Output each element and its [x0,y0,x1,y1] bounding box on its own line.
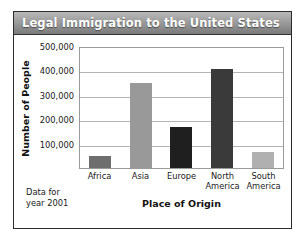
x-axis-tick-label-line: Africa [79,171,120,181]
bar-series [80,48,283,168]
bar[interactable] [211,69,233,168]
x-axis-title: Place of Origin [79,198,284,209]
chart-body: Number of People 100,000200,000300,00040… [14,35,291,228]
bar-slot [202,48,243,168]
x-axis-tick-label: NorthAmerica [202,171,243,191]
bar-slot [121,48,162,168]
y-axis-title-text: Number of People [20,60,31,156]
y-axis-tick-label: 500,000 [40,42,74,52]
y-axis-title: Number of People [18,47,32,169]
footnote-line-1: Data for [26,187,68,198]
x-axis-tick-labels: AfricaAsiaEuropeNorthAmericaSouthAmerica [79,171,284,191]
chart-figure: Legal Immigration to the United States N… [13,11,292,229]
chart-title: Legal Immigration to the United States [22,16,280,30]
x-axis-tick-label-line: Asia [120,171,161,181]
bar[interactable] [89,156,111,168]
chart-footnote: Data for year 2001 [26,187,68,209]
bar-slot [161,48,202,168]
x-axis-tick-label: Africa [79,171,120,191]
x-axis-tick-label-line: America [243,181,284,191]
bar[interactable] [252,152,274,168]
x-axis-tick-label-line: Europe [161,171,202,181]
x-axis-tick-label-line: South [243,171,284,181]
x-axis-tick-label: Europe [161,171,202,191]
x-axis-tick-label-line: North [202,171,243,181]
y-axis-tick-label: 200,000 [40,115,74,125]
x-axis-tick-label-line: America [202,181,243,191]
bar[interactable] [170,127,192,168]
bar-slot [242,48,283,168]
y-axis-tick-label: 400,000 [40,66,74,76]
x-axis-tick-label: SouthAmerica [243,171,284,191]
y-axis-tick-label: 300,000 [40,91,74,101]
chart-title-bar: Legal Immigration to the United States [14,12,291,35]
y-axis-tick-label: 100,000 [40,140,74,150]
bar-slot [80,48,121,168]
footnote-line-2: year 2001 [26,198,68,209]
x-axis-tick-label: Asia [120,171,161,191]
y-axis-tick-labels: 100,000200,000300,000400,000500,000 [32,47,77,169]
plot-area [79,47,284,169]
bar[interactable] [130,83,152,168]
